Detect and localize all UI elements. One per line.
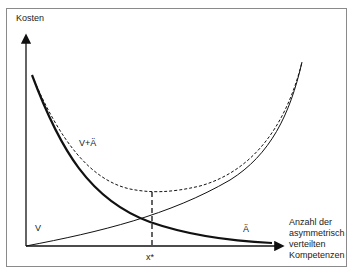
x-axis-label-line: Kompetenzen xyxy=(289,250,349,261)
curve-v-plus-a xyxy=(34,62,302,192)
curve-v xyxy=(26,62,302,246)
x-axis-label-line: Anzahl der xyxy=(289,217,349,228)
curve-label-a: Ä xyxy=(243,224,249,235)
y-axis-label: Kosten xyxy=(16,13,44,24)
x-axis-label-line: verteilten xyxy=(289,239,349,250)
curve-label-v: V xyxy=(35,223,41,234)
curve-label-v-plus-a: V+Ä xyxy=(79,138,96,149)
x-axis-label: Anzahl der asymmetrisch verteilten Kompe… xyxy=(289,217,349,261)
optimum-label: x* xyxy=(146,252,154,263)
x-axis-label-line: asymmetrisch xyxy=(289,228,349,239)
